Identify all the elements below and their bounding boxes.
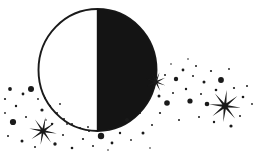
star-dot — [111, 142, 114, 145]
star-dot — [15, 105, 17, 107]
star-dot — [4, 112, 6, 114]
star-dot — [82, 138, 84, 140]
star-dot — [125, 118, 129, 122]
star-dot — [187, 58, 189, 60]
star-dot — [130, 139, 132, 141]
star-dot — [170, 63, 172, 65]
star-dot — [182, 69, 185, 72]
star-dot — [187, 98, 192, 103]
star-dot — [164, 74, 166, 76]
limb-dot — [71, 123, 73, 125]
star-dot — [210, 70, 212, 72]
limb-dot — [44, 97, 46, 99]
star-dot — [142, 132, 145, 135]
star-dot — [34, 146, 36, 148]
star-dot — [149, 147, 151, 149]
star-dot — [7, 135, 9, 137]
star-dot — [239, 115, 241, 117]
star-dot — [10, 119, 16, 125]
star-dot — [92, 145, 94, 147]
star-dot — [174, 77, 178, 81]
star-dot — [233, 87, 235, 89]
moon-illustration — [0, 0, 261, 156]
star-dot — [228, 68, 230, 70]
star-dot — [59, 103, 61, 105]
star-dot — [192, 75, 194, 77]
star-dot — [139, 112, 141, 114]
star-dot — [45, 119, 47, 121]
star-dot — [200, 93, 202, 95]
star-dot — [71, 147, 74, 150]
star-dot — [164, 100, 170, 106]
star-dot — [229, 124, 232, 127]
star-dot — [205, 102, 210, 107]
star-dot — [246, 85, 248, 87]
star-dot — [25, 116, 27, 118]
star-dot — [158, 95, 161, 98]
star-dot — [213, 121, 215, 123]
star-dot — [242, 96, 245, 99]
star-dot — [119, 132, 121, 134]
star-dot — [107, 149, 109, 151]
limb-dot — [56, 112, 58, 114]
star-dot — [53, 142, 56, 145]
star-dot — [178, 119, 180, 121]
star-dot — [172, 92, 174, 94]
limb-dot — [88, 130, 90, 132]
star-dot — [40, 108, 43, 111]
star-dot — [251, 103, 253, 105]
star-dot — [215, 89, 218, 92]
star-dot — [151, 124, 153, 126]
star-dot — [159, 112, 161, 114]
star-dot — [66, 123, 68, 125]
star-dot — [195, 65, 197, 67]
star-dot — [87, 126, 89, 128]
limb-dot — [63, 118, 65, 120]
limb-dot — [79, 127, 81, 129]
star-dot — [185, 88, 187, 90]
star-dot — [4, 98, 6, 100]
star-dot — [28, 86, 34, 92]
star-dot — [218, 77, 224, 83]
star-dot — [51, 123, 53, 125]
star-dot — [98, 133, 104, 139]
star-dot — [22, 93, 25, 96]
artboard — [0, 0, 261, 156]
star-dot — [203, 81, 206, 84]
star-dot — [198, 116, 200, 118]
star-dot — [62, 134, 64, 136]
limb-dot — [49, 105, 51, 107]
star-dot — [37, 98, 39, 100]
star-dot — [21, 140, 24, 143]
star-dot — [8, 87, 12, 91]
